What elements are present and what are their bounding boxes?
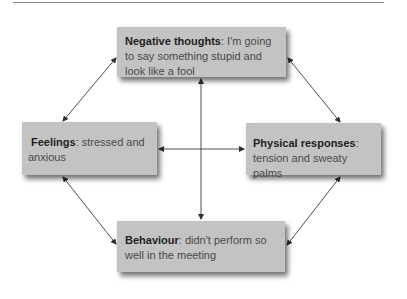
node-label: Feelings <box>28 136 76 148</box>
node-feelings: Feelings: stressed and anxious <box>22 122 157 175</box>
node-behaviour: Behaviour: didn't perform so well in the… <box>117 221 285 272</box>
arrow-physical-behaviour <box>287 177 340 245</box>
node-separator: : <box>356 137 359 149</box>
arrow-feelings-behaviour <box>63 177 116 244</box>
node-label: Physical responses <box>253 137 356 149</box>
node-negative-thoughts: Negative thoughts: I'm going to say some… <box>117 27 286 77</box>
node-label: Behaviour <box>125 234 179 246</box>
node-text: tension and sweaty palms <box>253 152 347 179</box>
node-label: Negative thoughts <box>125 35 221 47</box>
node-physical-responses: Physical responses: tension and sweaty p… <box>246 123 381 175</box>
arrow-negative-physical <box>288 58 340 122</box>
arrow-negative-feelings <box>63 58 116 121</box>
